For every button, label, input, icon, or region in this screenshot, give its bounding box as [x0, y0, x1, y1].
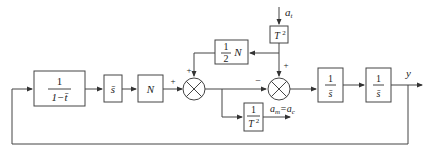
inv-T2-numerator: 1 — [251, 104, 256, 115]
prefilter-block: 1 1−t̄ — [34, 71, 85, 106]
inv-T2-superscript: 2 — [256, 117, 260, 125]
sum2-left-sign: − — [255, 75, 261, 86]
T2-block: T 2 — [270, 26, 288, 43]
integrator-1-block: 1 s̄ — [318, 68, 343, 102]
block-diagram: 1 1−t̄ s̄ N + + 1 2 N at T 2 + − — [0, 0, 431, 152]
inv-T2-block: 1 T 2 — [244, 103, 263, 131]
summing-junction-2 — [268, 78, 290, 100]
half-N-denominator: 2 — [224, 53, 229, 64]
output-label: y — [405, 67, 411, 79]
prefilter-denominator: 1−t̄ — [52, 91, 69, 103]
half-N-block: 1 2 N — [215, 40, 248, 64]
s-bar-label: s̄ — [111, 83, 116, 95]
integrator-2-block: 1 s̄ — [366, 68, 391, 102]
gain-N-label: N — [146, 83, 155, 95]
branch-to-invT2 — [222, 89, 242, 117]
missile-accel-label: am=ac — [270, 103, 296, 116]
T2-superscript: 2 — [282, 29, 286, 37]
sum1-left-sign: + — [170, 76, 175, 86]
link-halfN-sum1 — [194, 53, 215, 76]
target-accel-label: at — [285, 6, 294, 20]
s-bar-block: s̄ — [104, 75, 122, 102]
summing-junction-1 — [183, 78, 205, 100]
sum1-top-sign: + — [186, 65, 191, 75]
integrator-1-denominator: s̄ — [329, 88, 333, 99]
prefilter-numerator: 1 — [57, 75, 63, 87]
integrator-1-numerator: 1 — [328, 73, 333, 84]
half-N-numerator: 1 — [224, 41, 229, 52]
integrator-2-numerator: 1 — [376, 73, 381, 84]
gain-N-block: N — [138, 75, 163, 102]
half-N-suffix: N — [233, 46, 242, 58]
sum2-top-sign: + — [283, 60, 288, 70]
integrator-2-denominator: s̄ — [377, 88, 381, 99]
